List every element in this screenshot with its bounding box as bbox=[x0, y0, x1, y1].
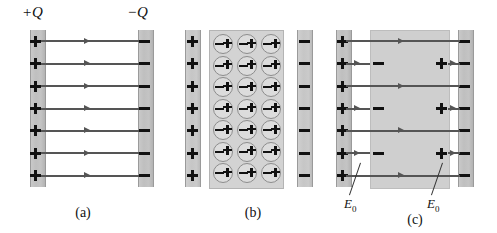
molecule-dipole bbox=[213, 120, 233, 140]
charge-negative bbox=[299, 107, 310, 110]
charge-negative bbox=[299, 152, 310, 155]
molecule-dipole bbox=[237, 99, 257, 119]
charge-positive bbox=[30, 170, 41, 181]
charge-positive bbox=[187, 170, 198, 181]
molecule-positive-pole bbox=[271, 82, 280, 91]
charge-negative bbox=[299, 62, 310, 65]
molecule-dipole bbox=[237, 120, 257, 140]
label-field-right-e0: E0 bbox=[427, 196, 439, 214]
field-line bbox=[40, 152, 140, 154]
molecule-positive-pole bbox=[247, 60, 256, 69]
molecule-positive-pole bbox=[271, 103, 280, 112]
field-line-arrowhead bbox=[84, 83, 90, 89]
charge-negative bbox=[299, 40, 310, 43]
molecule-positive-pole bbox=[223, 146, 232, 155]
field-line-arrowhead-left bbox=[354, 105, 360, 111]
molecule-dipole bbox=[213, 77, 233, 97]
molecule-positive-pole bbox=[223, 39, 232, 48]
charge-positive bbox=[30, 81, 41, 92]
molecule-dipole bbox=[261, 99, 281, 119]
label-field-left-e0: E0 bbox=[344, 196, 356, 214]
molecule-dipole bbox=[237, 56, 257, 76]
field-line bbox=[40, 85, 140, 87]
molecule-dipole bbox=[261, 163, 281, 183]
field-line-arrowhead bbox=[84, 38, 90, 44]
charge-positive bbox=[187, 36, 198, 47]
molecule-dipole bbox=[213, 163, 233, 183]
field-line-arrowhead-right bbox=[450, 60, 456, 66]
molecule-dipole bbox=[237, 77, 257, 97]
induced-charge-positive bbox=[436, 58, 447, 69]
charge-negative bbox=[139, 85, 150, 88]
charge-negative bbox=[139, 107, 150, 110]
molecule-positive-pole bbox=[223, 125, 232, 134]
molecule-positive-pole bbox=[271, 39, 280, 48]
field-line-arrowhead bbox=[398, 172, 404, 178]
molecule-dipole bbox=[261, 56, 281, 76]
field-line-arrowhead bbox=[398, 38, 404, 44]
physics-figure-dielectric-capacitor: +Q −Q E0 E0 (a) (b) (c) bbox=[0, 0, 497, 233]
molecule-dipole bbox=[213, 34, 233, 54]
charge-positive bbox=[187, 103, 198, 114]
molecule-positive-pole bbox=[247, 39, 256, 48]
induced-charge-positive bbox=[436, 103, 447, 114]
field-line-arrowhead bbox=[398, 83, 404, 89]
molecule-positive-pole bbox=[223, 103, 232, 112]
panel-b bbox=[168, 0, 332, 233]
charge-positive bbox=[30, 148, 41, 159]
charge-negative bbox=[139, 129, 150, 132]
label-field-right-e0-text: E bbox=[427, 196, 435, 211]
charge-positive bbox=[30, 103, 41, 114]
molecule-positive-pole bbox=[271, 60, 280, 69]
panel-c: E0 E0 bbox=[332, 0, 497, 233]
field-line bbox=[40, 40, 140, 42]
molecule-dipole bbox=[261, 77, 281, 97]
molecule-positive-pole bbox=[271, 146, 280, 155]
molecule-dipole bbox=[261, 34, 281, 54]
field-line bbox=[40, 130, 140, 132]
induced-charge-negative bbox=[373, 107, 384, 110]
molecule-positive-pole bbox=[247, 82, 256, 91]
label-negative-charge: −Q bbox=[127, 4, 148, 21]
induced-charge-positive bbox=[436, 148, 447, 159]
induced-charge-negative bbox=[373, 62, 384, 65]
charge-negative bbox=[459, 174, 470, 177]
molecule-dipole bbox=[237, 142, 257, 162]
charge-negative bbox=[139, 152, 150, 155]
charge-negative bbox=[459, 129, 470, 132]
field-line-arrowhead bbox=[84, 172, 90, 178]
molecule-dipole bbox=[213, 99, 233, 119]
charge-negative bbox=[459, 62, 470, 65]
field-line-arrowhead-left bbox=[354, 60, 360, 66]
molecule-dipole bbox=[237, 163, 257, 183]
field-line-arrowhead bbox=[84, 60, 90, 66]
field-line bbox=[40, 108, 140, 110]
molecule-positive-pole bbox=[247, 103, 256, 112]
charge-negative bbox=[299, 85, 310, 88]
field-line-arrowhead-right bbox=[450, 105, 456, 111]
molecule-dipole bbox=[213, 56, 233, 76]
charge-positive bbox=[187, 58, 198, 69]
label-field-left-e0-text: E bbox=[344, 196, 352, 211]
charge-negative bbox=[139, 174, 150, 177]
field-line-arrowhead bbox=[84, 105, 90, 111]
charge-positive bbox=[187, 148, 198, 159]
molecule-positive-pole bbox=[223, 82, 232, 91]
caption-b: (b) bbox=[228, 205, 278, 221]
molecule-dipole bbox=[237, 34, 257, 54]
molecule-positive-pole bbox=[271, 168, 280, 177]
molecule-dipole bbox=[261, 142, 281, 162]
molecule-dipole bbox=[213, 142, 233, 162]
field-line-arrowhead-left bbox=[354, 150, 360, 156]
charge-positive bbox=[187, 81, 198, 92]
charge-negative bbox=[299, 174, 310, 177]
charge-negative bbox=[459, 152, 470, 155]
molecule-dipole bbox=[261, 120, 281, 140]
field-line bbox=[40, 175, 140, 177]
charge-positive bbox=[187, 125, 198, 136]
field-line-arrowhead bbox=[398, 127, 404, 133]
charge-negative bbox=[459, 40, 470, 43]
label-field-left-e0-sub: 0 bbox=[352, 204, 357, 214]
field-line-arrowhead bbox=[84, 150, 90, 156]
molecule-positive-pole bbox=[247, 146, 256, 155]
